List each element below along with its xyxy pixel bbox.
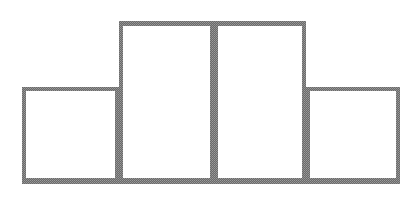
chart-background: [0, 0, 416, 201]
figure-root: [0, 0, 416, 201]
histogram-chart: [0, 0, 416, 201]
